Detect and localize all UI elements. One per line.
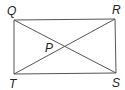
rectangle-diagram: Q R T S P [0, 0, 125, 90]
side-rs [115, 19, 116, 73]
label-r: R [112, 3, 121, 17]
label-s: S [112, 76, 120, 90]
label-p: P [45, 41, 53, 55]
side-qr [14, 19, 115, 20]
label-t: T [9, 77, 18, 90]
side-st [14, 73, 116, 74]
label-q: Q [7, 4, 16, 18]
diagonal-tr [14, 19, 115, 74]
